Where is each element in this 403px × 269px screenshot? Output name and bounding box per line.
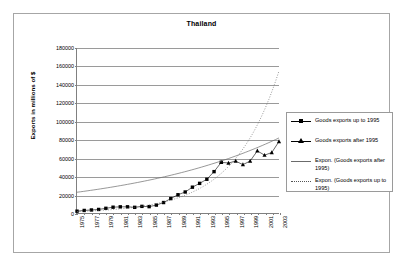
- data-point-square: [205, 178, 208, 181]
- x-tick-mark: [258, 213, 259, 215]
- x-tick-mark: [273, 213, 274, 215]
- x-tick-mark: [164, 213, 165, 215]
- chart-legend: Goods exports up to 1995 Goods exports a…: [286, 112, 393, 192]
- data-point-square: [184, 190, 187, 193]
- data-point-square: [155, 203, 158, 206]
- x-tick-mark: [92, 213, 93, 215]
- x-tick-label: 1975: [79, 216, 85, 228]
- y-tick-label: 20000: [59, 193, 74, 199]
- x-tick-mark: [251, 213, 252, 215]
- x-tick-mark: [215, 213, 216, 215]
- legend-item-goods-exports-up-to-1995[interactable]: Goods exports up to 1995: [290, 117, 389, 132]
- legend-key-square-marker-icon: [290, 117, 312, 125]
- legend-item-expon-up-to-1995[interactable]: Expon. (Goods exports up to 1995): [290, 177, 389, 192]
- x-tick-label: 1989: [181, 216, 187, 228]
- x-tick-label: 1995: [224, 216, 230, 228]
- x-tick-mark: [208, 213, 209, 215]
- x-tick-label: 1993: [210, 216, 216, 228]
- y-tick-label: 60000: [59, 156, 74, 162]
- data-point-square: [191, 185, 194, 188]
- x-tick-label: 1985: [152, 216, 158, 228]
- data-point-square: [104, 207, 107, 210]
- x-tick-label: 1997: [239, 216, 245, 228]
- x-tick-mark: [179, 213, 180, 215]
- legend-key-triangle-marker-icon: [290, 137, 312, 145]
- x-tick-mark: [193, 213, 194, 215]
- x-tick-label: 1977: [94, 216, 100, 228]
- legend-key-dotted-line-icon: [290, 177, 312, 185]
- data-point-square: [198, 182, 201, 185]
- legend-item-expon-after-1995[interactable]: Expon. (Goods exports after 1995): [290, 157, 389, 172]
- chart-data-layer: [77, 48, 279, 213]
- x-tick-mark: [171, 213, 172, 215]
- chart-frame: Thailand Exports in millions of $ 020000…: [13, 13, 390, 253]
- legend-key-solid-line-icon: [290, 157, 312, 165]
- x-tick-mark: [244, 213, 245, 215]
- x-tick-label: 1983: [137, 216, 143, 228]
- x-tick-label: 1999: [253, 216, 259, 228]
- chart-title: Thailand: [14, 20, 389, 27]
- x-tick-mark: [121, 213, 122, 215]
- data-point-square: [119, 205, 122, 208]
- x-tick-mark: [150, 213, 151, 215]
- data-point-triangle: [277, 139, 281, 143]
- x-tick-mark: [222, 213, 223, 215]
- data-point-square: [111, 206, 114, 209]
- legend-label: Expon. (Goods exports up to 1995): [315, 177, 389, 192]
- x-tick-label: 1987: [166, 216, 172, 228]
- y-tick-label: 80000: [59, 137, 74, 143]
- legend-label: Goods exports up to 1995: [315, 117, 389, 125]
- x-tick-mark: [229, 213, 230, 215]
- x-tick-mark: [77, 213, 78, 215]
- x-tick-mark: [266, 213, 267, 215]
- x-tick-mark: [128, 213, 129, 215]
- x-tick-label: 2003: [282, 216, 288, 228]
- data-point-square: [147, 205, 150, 208]
- y-tick-label: 180000: [56, 45, 74, 51]
- x-tick-mark: [99, 213, 100, 215]
- y-tick-label: 0: [71, 211, 74, 217]
- x-tick-label: 1981: [123, 216, 129, 228]
- legend-item-goods-exports-after-1995[interactable]: Goods exports after 1995: [290, 137, 389, 152]
- x-tick-mark: [186, 213, 187, 215]
- y-axis-title: Exports in millions of $: [29, 41, 36, 171]
- x-tick-label: 1991: [195, 216, 201, 228]
- y-tick-label: 100000: [56, 119, 74, 125]
- data-point-triangle: [234, 159, 238, 163]
- x-tick-label: 1979: [108, 216, 114, 228]
- y-tick-label: 140000: [56, 82, 74, 88]
- trendline-solid: [77, 138, 279, 192]
- x-tick-mark: [200, 213, 201, 215]
- x-tick-mark: [84, 213, 85, 215]
- data-point-square: [83, 209, 86, 212]
- y-tick-label: 160000: [56, 63, 74, 69]
- x-tick-mark: [106, 213, 107, 215]
- x-tick-mark: [157, 213, 158, 215]
- x-tick-mark: [135, 213, 136, 215]
- series-line: [77, 162, 221, 211]
- plot-area: 0200004000060000800001000001200001400001…: [76, 48, 279, 214]
- y-tick-label: 120000: [56, 100, 74, 106]
- x-tick-mark: [142, 213, 143, 215]
- trendline-dotted: [77, 71, 279, 212]
- x-tick-label: 2001: [268, 216, 274, 228]
- x-tick-mark: [237, 213, 238, 215]
- x-tick-mark: [113, 213, 114, 215]
- y-tick-label: 40000: [59, 174, 74, 180]
- x-tick-mark: [280, 213, 281, 215]
- data-point-square: [212, 170, 215, 173]
- data-point-square: [176, 193, 179, 196]
- legend-label: Expon. (Goods exports after 1995): [315, 157, 389, 172]
- data-point-triangle: [241, 162, 245, 166]
- legend-label: Goods exports after 1995: [315, 137, 389, 145]
- data-point-triangle: [255, 149, 259, 153]
